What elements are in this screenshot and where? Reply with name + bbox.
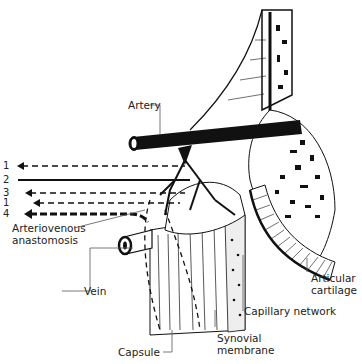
label-synovial-line2: membrane <box>217 344 274 356</box>
flow-number-4: 4 <box>3 209 9 219</box>
label-vein: Vein <box>84 285 106 297</box>
label-arteriovenous-line2: anastomosis <box>12 234 78 246</box>
vein-shape <box>119 230 152 254</box>
flow-number-1a: 1 <box>3 161 9 171</box>
capsule-tissue <box>150 182 245 335</box>
label-articular-line2: cartilage <box>311 284 357 296</box>
label-articular-line1: Articular <box>311 272 356 284</box>
flow-number-2: 2 <box>3 175 9 185</box>
label-synovial-line1: Synovial <box>217 332 261 344</box>
flow-number-1b: 1 <box>3 198 9 208</box>
label-capillary-network: Capillary network <box>244 305 336 317</box>
label-artery: Artery <box>128 99 161 111</box>
label-capsule: Capsule <box>118 346 160 358</box>
label-arteriovenous-line1: Arteriovenous <box>12 222 86 234</box>
joint-diagram: 1 2 3 1 4 Artery Arteriovenous anastomos… <box>0 0 362 364</box>
